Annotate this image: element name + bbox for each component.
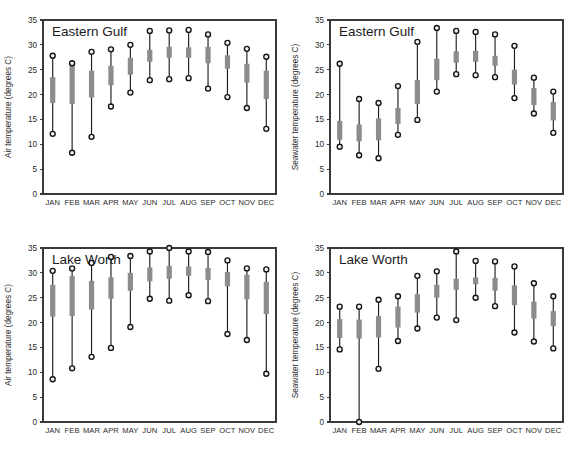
x-tick-label-mar: MAR — [370, 426, 388, 435]
box-bar — [108, 277, 113, 298]
max-marker — [357, 304, 362, 309]
x-axis-month-labels: JANFEBMARAPRMAYJUNJULAUGSEPOCTNOVDEC — [332, 426, 561, 435]
data-series-group — [337, 25, 556, 160]
x-tick-label-mar: MAR — [83, 198, 101, 207]
figure-panel-grid: 05101520253035Air temperature (degrees C… — [0, 0, 575, 456]
panel-title: Lake Worth — [339, 252, 408, 267]
max-marker — [551, 89, 556, 94]
x-tick-label-aug: AUG — [467, 198, 484, 207]
range-marker-oct — [225, 40, 230, 99]
y-tick-label: 5 — [319, 165, 324, 174]
max-marker — [473, 258, 478, 263]
x-tick-label-aug: AUG — [467, 426, 484, 435]
min-marker — [376, 156, 381, 161]
x-tick-label-aug: AUG — [180, 198, 197, 207]
x-tick-label-jun: JUN — [429, 426, 444, 435]
box-bar — [89, 281, 94, 310]
box-bar — [395, 108, 400, 124]
max-marker — [50, 268, 55, 273]
x-tick-label-may: MAY — [409, 426, 425, 435]
y-tick-label: 10 — [28, 368, 38, 377]
y-tick-label: 10 — [315, 140, 325, 149]
max-marker — [206, 249, 211, 254]
y-tick-label: 25 — [315, 66, 325, 75]
y-axis-title: Air temperature (degrees C) — [4, 284, 13, 386]
min-marker — [531, 339, 536, 344]
data-series-group — [50, 27, 269, 155]
box-bar — [108, 66, 113, 85]
x-tick-label-jan: JAN — [332, 198, 347, 207]
box-bar — [551, 311, 556, 326]
y-tick-label: 35 — [315, 244, 325, 253]
max-marker — [454, 28, 459, 33]
range-marker-mar — [89, 260, 94, 359]
box-bar — [128, 58, 133, 75]
min-marker — [128, 90, 133, 95]
box-bar — [512, 70, 517, 85]
range-marker-jan — [337, 304, 342, 352]
y-tick-label: 5 — [319, 393, 324, 402]
x-axis-month-labels: JANFEBMARAPRMAYJUNJULAUGSEPOCTNOVDEC — [332, 198, 561, 207]
box-bar — [434, 59, 439, 80]
max-marker — [434, 269, 439, 274]
x-tick-label-jan: JAN — [45, 198, 60, 207]
max-marker — [167, 28, 172, 33]
max-marker — [434, 25, 439, 30]
box-bar — [264, 282, 269, 314]
y-tick-label: 25 — [28, 66, 38, 75]
max-marker — [128, 42, 133, 47]
x-tick-label-jan: JAN — [332, 426, 347, 435]
x-tick-label-may: MAY — [122, 198, 138, 207]
range-marker-jun — [147, 28, 152, 82]
range-marker-may — [415, 39, 420, 122]
range-marker-jun — [434, 269, 439, 320]
min-marker — [167, 77, 172, 82]
min-marker — [186, 293, 191, 298]
range-marker-apr — [108, 254, 113, 350]
box-bar — [70, 276, 75, 316]
y-tick-label: 20 — [28, 91, 38, 100]
min-marker — [415, 326, 420, 331]
range-marker-feb — [357, 97, 362, 158]
min-marker — [551, 346, 556, 351]
min-marker — [395, 132, 400, 137]
y-tick-label: 15 — [28, 115, 38, 124]
y-axis-title: Seawater temperature (degrees C) — [291, 271, 300, 398]
x-tick-label-may: MAY — [122, 426, 138, 435]
max-marker — [108, 254, 113, 259]
range-marker-dec — [551, 294, 556, 351]
max-marker — [376, 297, 381, 302]
x-tick-label-oct: OCT — [219, 426, 236, 435]
min-marker — [50, 377, 55, 382]
max-marker — [395, 294, 400, 299]
box-bar — [186, 266, 191, 275]
min-marker — [108, 104, 113, 109]
max-marker — [473, 29, 478, 34]
max-marker — [415, 39, 420, 44]
x-tick-label-nov: NOV — [525, 426, 543, 435]
range-marker-nov — [531, 75, 536, 116]
min-marker — [337, 144, 342, 149]
max-marker — [454, 249, 459, 254]
box-bar — [186, 47, 191, 57]
panel-title: Eastern Gulf — [52, 24, 127, 39]
box-bar — [492, 278, 497, 291]
chart-panel-lake-worth-air: 05101520253035Air temperature (degrees C… — [0, 236, 288, 456]
plot-frame — [330, 248, 563, 422]
panel-title: Eastern Gulf — [339, 24, 414, 39]
min-marker — [415, 117, 420, 122]
x-tick-label-nov: NOV — [238, 198, 256, 207]
x-tick-label-jul: JUL — [162, 198, 176, 207]
max-marker — [70, 266, 75, 271]
x-tick-label-mar: MAR — [370, 198, 388, 207]
x-tick-label-dec: DEC — [545, 198, 562, 207]
range-marker-may — [128, 42, 133, 95]
min-marker — [70, 366, 75, 371]
min-marker — [512, 96, 517, 101]
x-tick-label-jan: JAN — [45, 426, 60, 435]
y-axis-ticks: 05101520253035 — [28, 244, 43, 427]
chart-svg-eastern-gulf-air: 05101520253035Air temperature (degrees C… — [0, 8, 288, 228]
min-marker — [244, 105, 249, 110]
max-marker — [70, 61, 75, 66]
box-bar — [147, 267, 152, 281]
